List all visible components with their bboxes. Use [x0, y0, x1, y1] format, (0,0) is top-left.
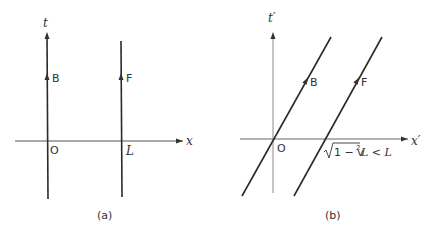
origin-prime-label: O: [277, 142, 286, 155]
worldline-f: [121, 41, 122, 197]
diagram-b: x′ t′ B F O 1 − v 2 L < L (b): [240, 11, 421, 222]
worldline-b-prime: [242, 37, 331, 196]
annotation-suffix: L < L: [360, 146, 392, 159]
t-axis-arrow-icon: [45, 32, 50, 39]
worldline-f-arrow-icon: [119, 73, 124, 80]
origin-label: O: [50, 144, 59, 157]
worldline-f-prime: [294, 37, 382, 196]
worldline-b: [47, 34, 48, 199]
caption-a: (a): [97, 209, 112, 222]
position-l-label: L: [125, 144, 134, 158]
worldline-b-arrow-icon: [45, 73, 50, 80]
t-axis-label: t: [43, 16, 48, 30]
radical-exponent: 2: [356, 144, 360, 152]
length-contraction-annotation: 1 − v 2 L < L: [324, 143, 392, 159]
spacetime-diagrams: x t B F O L (a) x′ t′ B F O: [0, 0, 432, 234]
caption-b: (b): [325, 209, 341, 222]
x-prime-axis-arrow-icon: [401, 137, 408, 142]
x-axis-arrow-icon: [176, 139, 183, 144]
worldline-f-prime-label: F: [361, 76, 367, 89]
worldline-f-label: F: [126, 72, 132, 85]
diagram-a: x t B F O L (a): [15, 16, 193, 222]
worldline-b-label: B: [52, 72, 60, 85]
worldline-b-prime-label: B: [310, 76, 318, 89]
t-prime-axis-label: t′: [268, 11, 276, 25]
x-prime-axis-label: x′: [411, 134, 421, 148]
x-axis-label: x: [186, 134, 193, 148]
t-prime-axis-arrow-icon: [271, 32, 276, 39]
